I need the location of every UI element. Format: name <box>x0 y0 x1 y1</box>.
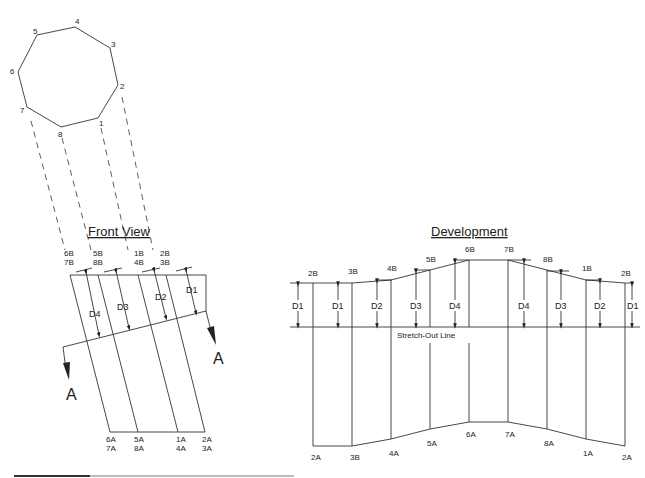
point-label: 6B <box>465 245 475 254</box>
front-view: Front View 6B 7B 5B 8B 1B 4B 2B 3B A A <box>63 224 224 453</box>
vertex-label: 2 <box>120 82 125 91</box>
dimension-label: D2 <box>155 292 167 302</box>
vertex-label: 8 <box>58 130 63 139</box>
vertex-label: 4 <box>75 17 80 26</box>
dimension-label: D4 <box>89 309 101 319</box>
vertex-label: 1 <box>99 119 104 128</box>
point-label: 4B <box>134 258 144 267</box>
dimension-label: D1 <box>186 285 198 295</box>
point-label: 7B <box>64 258 74 267</box>
point-label: 4A <box>176 444 186 453</box>
dimension-label: D4 <box>449 301 461 311</box>
point-label: 5A <box>427 439 437 448</box>
dimension-label: D1 <box>332 301 344 311</box>
point-label: 7B <box>504 245 514 254</box>
dimension-label: D1 <box>292 301 304 311</box>
dimension-label: D4 <box>518 301 530 311</box>
point-label: 5A <box>134 435 144 444</box>
octagon-top-view: 1 2 3 4 5 6 7 8 <box>10 17 125 139</box>
vertex-label: 5 <box>33 27 38 36</box>
point-label: 1B <box>134 249 144 258</box>
point-label: 2B <box>621 269 631 278</box>
point-label: 6A <box>466 430 476 439</box>
point-label: 3B <box>348 267 358 276</box>
dimension-label: D2 <box>594 301 606 311</box>
point-label: 2B <box>308 269 318 278</box>
point-label: 8A <box>134 444 144 453</box>
dimension-label: D3 <box>117 302 129 312</box>
point-label: 2A <box>622 453 632 462</box>
section-label: A <box>213 350 224 367</box>
front-view-title: Front View <box>88 224 151 239</box>
vertex-label: 7 <box>20 106 25 115</box>
section-label: A <box>66 386 77 403</box>
point-label: 1A <box>176 435 186 444</box>
point-label: 2A <box>311 453 321 462</box>
point-label: 6B <box>64 249 74 258</box>
point-label: 3B <box>160 258 170 267</box>
vertex-label: 6 <box>10 67 15 76</box>
vertex-label: 3 <box>111 40 116 49</box>
point-label: 1B <box>582 264 592 273</box>
dimension-label: D2 <box>371 301 383 311</box>
development-view: Development Stretch-Out Line <box>290 224 640 462</box>
point-label: 5B <box>426 255 436 264</box>
point-label: 3B <box>350 453 360 462</box>
dimension-label: D3 <box>410 301 422 311</box>
point-label: 6A <box>106 435 116 444</box>
point-label: 7A <box>106 444 116 453</box>
stretch-out-label: Stretch-Out Line <box>397 331 456 340</box>
point-label: 7A <box>505 430 515 439</box>
point-label: 1A <box>583 449 593 458</box>
point-label: 5B <box>93 249 103 258</box>
dimension-label: D3 <box>555 301 567 311</box>
development-title: Development <box>431 224 508 239</box>
point-label: 4A <box>389 449 399 458</box>
sheet-metal-drawing: 1 2 3 4 5 6 7 8 Front View 6B 7B 5B 8B 1… <box>0 0 645 478</box>
point-label: 8B <box>543 255 553 264</box>
point-label: 4B <box>387 264 397 273</box>
point-label: 8A <box>544 439 554 448</box>
point-label: 2B <box>160 249 170 258</box>
point-label: 8B <box>93 258 103 267</box>
dimension-label: D1 <box>627 301 639 311</box>
point-label: 3A <box>202 444 212 453</box>
point-label: 2A <box>202 435 212 444</box>
